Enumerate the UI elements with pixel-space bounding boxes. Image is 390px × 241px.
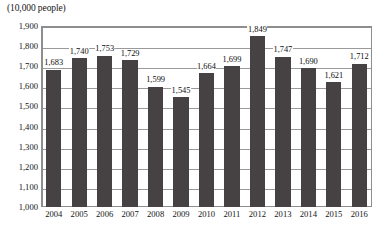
bars-layer: 1,6831,7401,7531,7291,5991,5451,6641,699… bbox=[41, 26, 372, 207]
bar-value-label: 1,683 bbox=[44, 59, 64, 67]
x-axis-tick-label: 2004 bbox=[45, 210, 62, 219]
bar-value-label: 1,747 bbox=[273, 46, 293, 54]
bar bbox=[301, 68, 316, 207]
y-axis-tick-label: 1,300 bbox=[2, 142, 38, 151]
x-axis-tick-label: 2005 bbox=[71, 210, 88, 219]
x-axis: 2004200520062007200820092010201120122013… bbox=[41, 210, 372, 230]
bar-value-label: 1,740 bbox=[69, 48, 89, 56]
bar-value-label: 1,545 bbox=[171, 87, 191, 95]
bar bbox=[46, 70, 61, 207]
bar bbox=[199, 73, 214, 207]
bar-value-label: 1,621 bbox=[324, 72, 344, 80]
bar bbox=[72, 58, 87, 207]
bar-value-label: 1,599 bbox=[146, 76, 166, 84]
bar bbox=[122, 60, 137, 207]
bar-value-label: 1,729 bbox=[120, 50, 140, 58]
bar bbox=[250, 36, 265, 207]
bar bbox=[173, 97, 188, 207]
y-axis-tick-label: 1,100 bbox=[2, 183, 38, 192]
bar-chart: (10,000 people) 1,9001,8001,7001,6001,50… bbox=[0, 0, 390, 241]
chart-unit-title: (10,000 people) bbox=[7, 3, 66, 13]
y-axis-tick-label: 1,800 bbox=[2, 42, 38, 51]
bar-value-label: 1,712 bbox=[349, 53, 369, 61]
bar bbox=[275, 57, 290, 207]
x-axis-tick-label: 2006 bbox=[96, 210, 113, 219]
bar bbox=[326, 82, 341, 207]
y-axis-tick-label: 1,500 bbox=[2, 102, 38, 111]
y-axis-tick-label: 1,600 bbox=[2, 82, 38, 91]
y-axis-tick-label: 1,400 bbox=[2, 122, 38, 131]
y-axis-tick-label: 1,000 bbox=[2, 203, 38, 212]
x-axis-tick-label: 2007 bbox=[122, 210, 139, 219]
bar bbox=[148, 87, 163, 207]
x-axis-tick-label: 2012 bbox=[249, 210, 266, 219]
y-axis-tick-label: 1,200 bbox=[2, 162, 38, 171]
x-axis-tick-label: 2015 bbox=[325, 210, 342, 219]
x-axis-tick-label: 2008 bbox=[147, 210, 164, 219]
x-axis-tick-label: 2014 bbox=[300, 210, 317, 219]
bar-value-label: 1,690 bbox=[298, 58, 318, 66]
bar-value-label: 1,753 bbox=[95, 45, 115, 53]
bar bbox=[97, 56, 112, 207]
bar-value-label: 1,849 bbox=[247, 26, 267, 34]
bar bbox=[224, 66, 239, 207]
bar bbox=[352, 64, 367, 207]
bar-value-label: 1,664 bbox=[197, 63, 217, 71]
y-axis-tick-label: 1,700 bbox=[2, 62, 38, 71]
y-axis-tick-label: 1,900 bbox=[2, 22, 38, 31]
x-axis-tick-label: 2009 bbox=[172, 210, 189, 219]
x-axis-tick-label: 2013 bbox=[274, 210, 291, 219]
x-axis-tick-label: 2010 bbox=[198, 210, 215, 219]
x-axis-tick-label: 2016 bbox=[351, 210, 368, 219]
bar-value-label: 1,699 bbox=[222, 56, 242, 64]
x-axis-tick-label: 2011 bbox=[224, 210, 241, 219]
y-axis: 1,9001,8001,7001,6001,5001,4001,3001,200… bbox=[0, 26, 38, 207]
